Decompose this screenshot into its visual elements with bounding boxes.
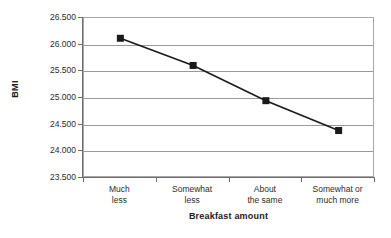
y-axis-tick-labels: 26.50026.00025.50025.00024.50024.00023.5…: [30, 17, 80, 177]
y-axis-tick-label: 23.500: [30, 173, 76, 182]
series-layer: [84, 18, 375, 178]
y-axis-title-text: BMI: [10, 80, 20, 98]
x-axis-category-label-line: less: [156, 195, 229, 206]
x-axis-category-label-line: Somewhat: [172, 184, 212, 194]
x-axis-category-label: Somewhatless: [156, 184, 229, 205]
y-axis-tick-label: 24.000: [30, 146, 76, 155]
y-axis-tick-label: 26.000: [30, 39, 76, 48]
y-axis-tick-label: 26.500: [30, 13, 76, 22]
x-axis-title: Breakfast amount: [83, 211, 374, 221]
y-axis-tick-label: 24.500: [30, 119, 76, 128]
x-axis-category-label: Aboutthe same: [229, 184, 302, 205]
y-axis-tick-label: 25.000: [30, 93, 76, 102]
series-line: [120, 38, 338, 130]
data-point-marker: [262, 97, 269, 104]
data-point-marker: [335, 127, 342, 134]
x-axis-tick: [229, 177, 230, 182]
data-point-marker: [117, 35, 124, 42]
data-point-marker: [190, 62, 197, 69]
x-axis-category-label-line: less: [83, 195, 156, 206]
x-axis-tick: [374, 177, 375, 182]
y-axis-title: BMI: [0, 0, 30, 177]
y-axis-tick-label: 25.500: [30, 66, 76, 75]
bmi-breakfast-line-chart: BMI 26.50026.00025.50025.00024.50024.000…: [0, 0, 391, 238]
x-axis-category-label-line: much more: [301, 195, 374, 206]
x-axis-category-label: Muchless: [83, 184, 156, 205]
x-axis-tick: [301, 177, 302, 182]
x-axis-category-label-line: the same: [229, 195, 302, 206]
plot-area: [83, 17, 374, 177]
x-axis-category-label-line: Much: [109, 184, 130, 194]
x-axis-tick: [83, 177, 84, 182]
x-axis-tick: [156, 177, 157, 182]
x-axis-category-label: Somewhat ormuch more: [301, 184, 374, 205]
x-axis-category-label-line: About: [254, 184, 276, 194]
x-axis-category-labels: MuchlessSomewhatlessAboutthe sameSomewha…: [83, 184, 374, 210]
x-axis-category-label-line: Somewhat or: [313, 184, 363, 194]
